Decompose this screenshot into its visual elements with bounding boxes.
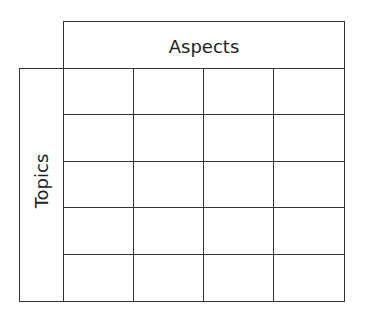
grid-cell (64, 69, 134, 115)
grid-cell (64, 162, 134, 208)
grid-cell (64, 115, 134, 161)
grid-cell (274, 69, 344, 115)
grid-cell (204, 208, 274, 254)
grid-cell (274, 208, 344, 254)
grid-cell (204, 115, 274, 161)
aspects-label: Aspects (63, 21, 345, 70)
grid-cell (274, 255, 344, 301)
grid-cell (204, 69, 274, 115)
grid-cell (134, 162, 204, 208)
topic-aspect-grid (63, 68, 345, 302)
grid-cell (134, 208, 204, 254)
grid-cell (274, 162, 344, 208)
grid-cell (134, 69, 204, 115)
grid-cell (274, 115, 344, 161)
grid-cell (134, 115, 204, 161)
grid-cell (64, 208, 134, 254)
grid-cell (64, 255, 134, 301)
topics-label: Topics (31, 154, 52, 209)
grid-cell (134, 255, 204, 301)
grid-cell (204, 162, 274, 208)
grid-cell (204, 255, 274, 301)
